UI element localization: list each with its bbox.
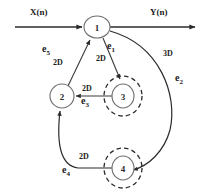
signal-flow-graph-diagram: 1 2 3 4 X(n) Y(n) e5 2D e1 2D 2D e3 3D e… bbox=[0, 0, 203, 196]
edge-e4-label: e4 bbox=[62, 165, 70, 178]
edge-e5-delay: 2D bbox=[53, 59, 63, 67]
edge-e5-path bbox=[68, 40, 90, 86]
edge-e1-delay: 2D bbox=[96, 55, 106, 63]
node-1-label: 1 bbox=[95, 23, 100, 33]
edge-e4-delay: 2D bbox=[79, 153, 89, 161]
edge-e2-label: e2 bbox=[175, 73, 183, 86]
edge-e2-delay: 3D bbox=[163, 50, 173, 58]
edge-e1-subscript: 1 bbox=[111, 46, 115, 54]
node-4-label: 4 bbox=[121, 164, 126, 174]
edge-e4-subscript: 4 bbox=[66, 170, 70, 178]
edge-e5-subscript: 5 bbox=[46, 49, 50, 57]
node-2-label: 2 bbox=[60, 92, 65, 102]
edge-e1-label: e1 bbox=[107, 41, 115, 54]
input-signal-label: X(n) bbox=[30, 8, 48, 17]
edge-e3-subscript: 3 bbox=[85, 101, 89, 109]
diagram-canvas: 1 2 3 4 bbox=[0, 0, 203, 196]
output-signal-label: Y(n) bbox=[150, 8, 168, 17]
edge-e3-delay: 2D bbox=[82, 85, 92, 93]
edge-e2-subscript: 2 bbox=[179, 78, 183, 86]
node-3-label: 3 bbox=[121, 92, 126, 102]
edge-e3-label: e3 bbox=[81, 96, 89, 109]
edge-e5-label: e5 bbox=[42, 44, 50, 57]
